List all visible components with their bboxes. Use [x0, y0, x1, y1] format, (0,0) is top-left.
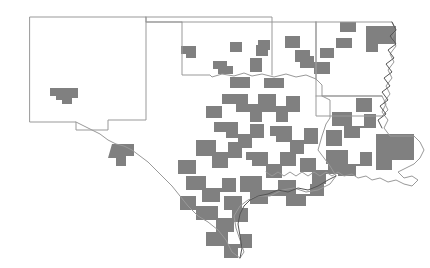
shaded-county [320, 48, 334, 58]
shaded-county [230, 77, 250, 88]
shaded-county [206, 106, 222, 118]
shaded-county [230, 42, 242, 52]
shaded-county [264, 78, 284, 88]
shaded-county [336, 38, 352, 48]
shaded-county [300, 56, 314, 68]
shaded-county [356, 98, 372, 112]
shaded-county [178, 160, 196, 174]
choropleth-map [0, 0, 430, 268]
shaded-county [326, 130, 342, 146]
shaded-county [250, 58, 262, 72]
shaded-county [340, 22, 356, 32]
shaded-county [258, 40, 270, 50]
shaded-county [285, 36, 300, 48]
shaded-county [180, 196, 196, 210]
map-canvas [0, 0, 430, 268]
